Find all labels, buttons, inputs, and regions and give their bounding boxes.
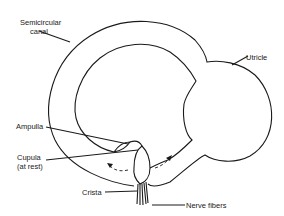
- label-utricle: Utricle: [246, 53, 267, 62]
- label-crista: Crista: [82, 188, 102, 197]
- label-semicircular-canal: Semicircular canal: [20, 18, 61, 36]
- inner-canal-wall: [75, 44, 196, 160]
- label-ampulla: Ampulla: [16, 122, 43, 131]
- nerve-fibers: [137, 182, 148, 205]
- cupula: [134, 146, 150, 184]
- label-cupula: Cupula (at rest): [17, 153, 43, 171]
- label-nerve-fibers: Nerve fibers: [186, 201, 226, 210]
- utricle-wall: [148, 75, 272, 186]
